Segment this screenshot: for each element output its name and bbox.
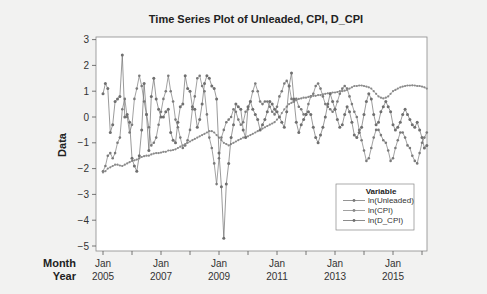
legend-title: Variable (366, 187, 397, 196)
y-tick-label: −4 (78, 215, 90, 226)
x-axis: Jan2005Jan2007Jan2009Jan2011Jan2013Jan20… (92, 251, 422, 282)
legend-label: ln(Unleaded) (368, 196, 414, 205)
y-tick-label: 1 (83, 86, 89, 97)
x-tick-month: Jan (95, 258, 111, 269)
legend-label: ln(CPI) (368, 206, 393, 215)
y-tick-label: 2 (83, 60, 89, 71)
x-tick-year: 2009 (208, 271, 231, 282)
x-tick-year: 2015 (382, 271, 405, 282)
y-tick-label: −5 (78, 241, 90, 252)
y-tick-label: −2 (78, 163, 90, 174)
x-tick-month: Jan (211, 258, 227, 269)
x-axis-row-label-year: Year (53, 270, 77, 282)
x-tick-month: Jan (385, 258, 401, 269)
y-axis: 3210−1−2−3−4−5 (78, 34, 96, 251)
x-tick-year: 2005 (92, 271, 115, 282)
x-tick-year: 2011 (266, 271, 288, 282)
y-tick-label: −1 (78, 137, 90, 148)
y-tick-label: 0 (83, 112, 89, 123)
x-tick-month: Jan (269, 258, 285, 269)
y-tick-label: 3 (83, 34, 89, 45)
y-tick-label: −3 (78, 189, 90, 200)
legend-label: ln(D_CPI) (368, 216, 403, 225)
x-tick-month: Jan (327, 258, 343, 269)
legend: Variable ln(Unleaded)ln(CPI)ln(D_CPI) (336, 184, 414, 230)
x-axis-row-label-month: Month (43, 257, 76, 269)
y-axis-label: Data (56, 132, 68, 157)
x-tick-year: 2013 (324, 271, 347, 282)
chart-title: Time Series Plot of Unleaded, CPI, D_CPI (149, 13, 363, 25)
x-tick-month: Jan (153, 258, 169, 269)
x-tick-year: 2007 (150, 271, 173, 282)
time-series-chart: Time Series Plot of Unleaded, CPI, D_CPI… (0, 0, 487, 294)
